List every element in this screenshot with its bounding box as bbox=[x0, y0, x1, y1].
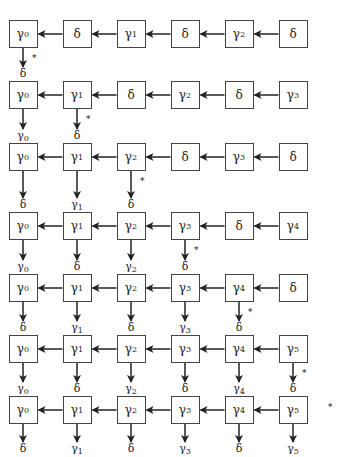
cell-r6-c1: γ1 bbox=[63, 396, 92, 424]
output-label: γ1 bbox=[71, 322, 83, 336]
cell-r1-c4: δ bbox=[225, 81, 254, 109]
cell-r4-c0: γ0 bbox=[9, 274, 38, 302]
cell-r3-c5: γ4 bbox=[279, 212, 308, 240]
cell-r4-c5: δ bbox=[279, 274, 308, 302]
output-label: δ bbox=[236, 443, 243, 454]
cell-r5-c3: γ3 bbox=[171, 335, 200, 363]
cell-r0-c4: γ2 bbox=[225, 20, 254, 48]
cell-r2-c4: γ3 bbox=[225, 143, 254, 171]
asterisk-marker: * bbox=[194, 246, 199, 255]
cell-r2-c3: δ bbox=[171, 143, 200, 171]
cell-r1-c3: γ2 bbox=[171, 81, 200, 109]
asterisk-marker: * bbox=[86, 115, 91, 124]
cell-r0-c0: γ0 bbox=[9, 20, 38, 48]
cell-r6-c3: γ3 bbox=[171, 396, 200, 424]
output-label: γ1 bbox=[71, 443, 83, 457]
output-label: γ2 bbox=[125, 383, 137, 397]
asterisk-marker: * bbox=[140, 177, 145, 186]
cell-r1-c5: γ3 bbox=[279, 81, 308, 109]
cell-r3-c0: γ0 bbox=[9, 212, 38, 240]
output-label: δ bbox=[74, 130, 81, 141]
asterisk-marker: * bbox=[32, 54, 37, 63]
output-label: γ0 bbox=[17, 130, 29, 144]
cell-r0-c3: δ bbox=[171, 20, 200, 48]
cell-r2-c2: γ2 bbox=[117, 143, 146, 171]
cell-r1-c2: δ bbox=[117, 81, 146, 109]
output-label: δ bbox=[128, 322, 135, 333]
cell-r6-c4: γ4 bbox=[225, 396, 254, 424]
output-label: γ1 bbox=[71, 199, 83, 213]
output-label: δ bbox=[74, 261, 81, 272]
output-label: γ0 bbox=[17, 261, 29, 275]
cell-r5-c5: γ5 bbox=[279, 335, 308, 363]
output-label: δ bbox=[128, 199, 135, 210]
cell-r0-c2: γ1 bbox=[117, 20, 146, 48]
cell-r6-c5: γ5 bbox=[279, 396, 308, 424]
cell-r2-c0: γ0 bbox=[9, 143, 38, 171]
output-label: γ0 bbox=[17, 383, 29, 397]
output-label: δ bbox=[182, 261, 189, 272]
output-label: δ bbox=[20, 443, 27, 454]
asterisk-marker: * bbox=[248, 308, 253, 317]
cell-r5-c0: γ0 bbox=[9, 335, 38, 363]
cell-r4-c1: γ1 bbox=[63, 274, 92, 302]
cell-r5-c4: γ4 bbox=[225, 335, 254, 363]
output-label: γ3 bbox=[179, 322, 191, 336]
cell-r4-c4: γ4 bbox=[225, 274, 254, 302]
cell-r4-c2: γ2 bbox=[117, 274, 146, 302]
cell-r2-c5: δ bbox=[279, 143, 308, 171]
output-label: δ bbox=[74, 383, 81, 394]
cell-r1-c0: γ0 bbox=[9, 81, 38, 109]
cell-r3-c4: δ bbox=[225, 212, 254, 240]
asterisk-marker: * bbox=[328, 403, 333, 412]
cell-r3-c1: γ1 bbox=[63, 212, 92, 240]
output-label: γ3 bbox=[179, 443, 191, 457]
cell-r0-c1: δ bbox=[63, 20, 92, 48]
output-label: δ bbox=[20, 322, 27, 333]
output-label: δ bbox=[290, 383, 297, 394]
cell-r1-c1: γ1 bbox=[63, 81, 92, 109]
output-label: γ5 bbox=[287, 443, 299, 457]
cell-r6-c2: γ2 bbox=[117, 396, 146, 424]
output-label: δ bbox=[128, 443, 135, 454]
cell-r5-c2: γ2 bbox=[117, 335, 146, 363]
output-label: δ bbox=[236, 322, 243, 333]
cell-r4-c3: γ3 bbox=[171, 274, 200, 302]
output-label: δ bbox=[20, 68, 27, 79]
cell-r5-c1: γ1 bbox=[63, 335, 92, 363]
cell-r6-c0: γ0 bbox=[9, 396, 38, 424]
cell-r3-c2: γ2 bbox=[117, 212, 146, 240]
output-label: δ bbox=[20, 199, 27, 210]
output-label: γ2 bbox=[125, 261, 137, 275]
cell-r3-c3: γ3 bbox=[171, 212, 200, 240]
cell-r2-c1: γ1 bbox=[63, 143, 92, 171]
cell-r0-c5: δ bbox=[279, 20, 308, 48]
output-label: γ4 bbox=[233, 383, 245, 397]
asterisk-marker: * bbox=[302, 369, 307, 378]
output-label: δ bbox=[182, 383, 189, 394]
